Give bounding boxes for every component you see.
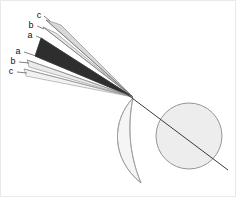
label-lower-a: a: [15, 46, 20, 56]
optics-ray-diagram: c b a a b c: [0, 0, 236, 197]
label-upper-c: c: [37, 10, 42, 20]
ray-fan-group: [24, 20, 133, 97]
leader-upper-b: [37, 26, 44, 29]
sphere: [156, 103, 222, 169]
lens-group: [117, 98, 141, 183]
leader-lower-a: [24, 52, 36, 56]
label-lower-b: b: [10, 56, 15, 66]
label-upper-a: a: [27, 30, 32, 40]
wedge-core-dark: [35, 38, 133, 97]
lens-shape: [117, 98, 141, 183]
label-lower-c: c: [9, 66, 14, 76]
label-upper-b: b: [28, 20, 33, 30]
leader-upper-a: [36, 36, 43, 39]
figure-container: c b a a b c: [0, 0, 236, 197]
